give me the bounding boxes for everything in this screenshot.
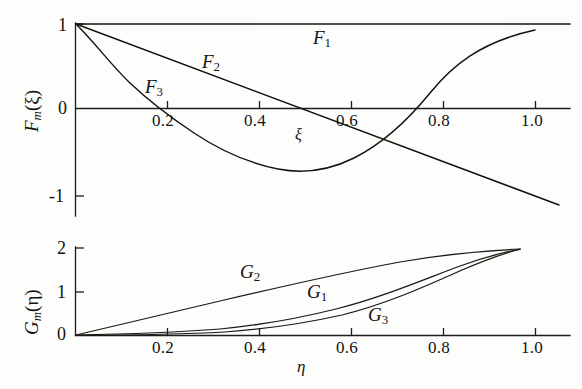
curve-label-G1-sub: 1	[321, 289, 327, 304]
bottom-y-tick-label-1: 1	[57, 283, 66, 301]
top-y-tick-label-minus1: -1	[49, 187, 64, 205]
bottom-y-tick-label-2: 2	[57, 239, 66, 257]
curve-label-F3-sub: 3	[157, 84, 163, 99]
top-x-axis-title: ξ	[295, 127, 302, 143]
top-x-tick-label-1.0: 1.0	[521, 112, 543, 129]
curve-label-F2-base: F	[202, 51, 214, 72]
curve-label-F1-base: F	[313, 27, 325, 48]
top-y-axis-title-arg: (ξ)	[21, 90, 42, 111]
top-panel-plot-area	[0, 0, 582, 225]
figure-root: Fm(ξ) 1 0 -1 0.2 0.4 0.6 0.8 1.0 ξ F1 F2…	[0, 0, 582, 389]
curve-F2	[76, 24, 559, 205]
curve-label-G3-sub: 3	[382, 312, 388, 327]
top-y-axis-title-base: F	[21, 120, 42, 132]
curve-label-F3: F3	[145, 77, 163, 99]
bottom-y-tick-label-0: 0	[57, 325, 66, 343]
bottom-x-tick-label-0.8: 0.8	[428, 339, 450, 356]
curve-label-G1: G1	[307, 282, 327, 304]
top-y-tick-label-0: 0	[58, 99, 67, 117]
curve-label-G1-base: G	[307, 281, 321, 302]
top-x-tick-label-0.8: 0.8	[428, 112, 450, 129]
curve-label-G2-base: G	[240, 261, 254, 282]
bottom-x-tick-label-0.2: 0.2	[152, 339, 174, 356]
bottom-x-tick-label-1.0: 1.0	[521, 339, 543, 356]
top-y-axis-title: Fm(ξ)	[22, 90, 44, 132]
bottom-panel-plot-area	[0, 225, 582, 389]
curve-G3	[76, 250, 520, 336]
curve-label-G3-base: G	[368, 304, 382, 325]
curve-label-F1-sub: 1	[325, 35, 331, 50]
bottom-y-axis-title-arg: (η)	[21, 289, 42, 312]
top-y-tick-label-1: 1	[58, 16, 67, 34]
curve-label-G2-sub: 2	[254, 269, 260, 284]
top-x-tick-label-0.4: 0.4	[244, 112, 266, 129]
chart-panel-top: Fm(ξ) 1 0 -1 0.2 0.4 0.6 0.8 1.0 ξ F1 F2…	[0, 0, 582, 225]
curve-G2	[76, 249, 520, 335]
bottom-y-axis-title: Gm(η)	[22, 289, 44, 335]
curve-label-G2: G2	[240, 262, 260, 284]
curve-G1	[76, 249, 520, 335]
top-y-axis-title-sub: m	[29, 111, 44, 120]
chart-panel-bottom: Gm(η) 2 1 0 0.2 0.4 0.6 0.8 1.0 η G2 G1 …	[0, 225, 582, 389]
top-x-tick-label-0.2: 0.2	[152, 112, 174, 129]
curve-label-F2-sub: 2	[214, 59, 220, 74]
curve-label-G3: G3	[368, 305, 388, 327]
bottom-y-axis-title-base: G	[21, 321, 42, 335]
curve-label-F3-base: F	[145, 76, 157, 97]
bottom-x-tick-label-0.4: 0.4	[244, 339, 266, 356]
top-x-tick-label-0.6: 0.6	[336, 112, 358, 129]
bottom-x-tick-label-0.6: 0.6	[336, 339, 358, 356]
curve-label-F2: F2	[202, 52, 220, 74]
curve-label-F1: F1	[313, 28, 331, 50]
bottom-y-axis-title-sub: m	[29, 312, 44, 321]
bottom-x-axis-title: η	[297, 358, 305, 375]
